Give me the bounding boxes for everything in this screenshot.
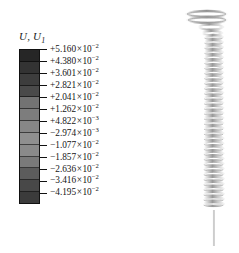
spring-transition-coils bbox=[198, 24, 223, 35]
colorbar-band bbox=[20, 157, 39, 169]
colorbar-band bbox=[20, 109, 39, 121]
colorbar-band bbox=[20, 121, 39, 133]
spring-coil-turn bbox=[204, 106, 223, 110]
spring-coil-turn bbox=[204, 40, 222, 44]
legend-title: U, U1 bbox=[19, 30, 45, 45]
spring-coil-turn bbox=[204, 91, 223, 95]
colorbar-band bbox=[20, 145, 39, 157]
legend-title-text: U, U bbox=[19, 30, 41, 42]
tick-mark bbox=[40, 169, 47, 170]
spring-coil-turn bbox=[204, 65, 222, 69]
tick-mark bbox=[40, 61, 47, 62]
colorbar-band bbox=[20, 180, 39, 192]
colorbar-band bbox=[20, 97, 39, 109]
spring-coil-turn bbox=[204, 156, 223, 160]
tick-mark bbox=[40, 121, 47, 122]
spring-coil-turn bbox=[204, 177, 223, 181]
spring-coil-turn bbox=[204, 151, 223, 155]
spring-coil-turn bbox=[204, 96, 223, 100]
spring-coil-turn bbox=[204, 146, 223, 150]
colorbar-band bbox=[20, 62, 39, 74]
spring-coil-turn bbox=[204, 50, 222, 54]
spring-coil-turn bbox=[204, 126, 223, 130]
colorbar-tick-list: +5.160×10−2+4.380×10−2+3.601×10−2+2.821×… bbox=[40, 49, 130, 204]
tick-mark bbox=[40, 157, 47, 158]
spring-coil-turn bbox=[204, 136, 223, 140]
spring-coil-turn bbox=[204, 101, 223, 105]
spring-coil-turn bbox=[204, 70, 222, 74]
model-viewport bbox=[130, 0, 239, 253]
colorbar-band bbox=[20, 192, 39, 203]
spring-coil-turn bbox=[204, 116, 223, 120]
colorbar-band bbox=[20, 168, 39, 180]
tick-mark bbox=[40, 73, 47, 74]
spring-coil-turn bbox=[204, 55, 222, 59]
spring-coil-turn bbox=[204, 197, 224, 201]
spring-coil-turn bbox=[204, 141, 223, 145]
tick-mark bbox=[40, 49, 47, 50]
legend-title-subscript: 1 bbox=[41, 36, 45, 45]
spring-coil-turn bbox=[204, 111, 223, 115]
tick-mark bbox=[40, 145, 47, 146]
tick-mark bbox=[40, 193, 47, 194]
spring-coil-turn bbox=[204, 121, 223, 125]
tick-mark bbox=[40, 109, 47, 110]
spring-coil-turn bbox=[204, 187, 224, 191]
spring-coil-turn bbox=[204, 60, 222, 64]
spring-coil-turn bbox=[204, 162, 223, 166]
spring-coil-turn bbox=[204, 76, 222, 80]
spring-coil-turn bbox=[204, 192, 224, 196]
tick-mark bbox=[40, 133, 47, 134]
spring-coil-turn bbox=[205, 35, 223, 39]
tick-mark bbox=[40, 85, 47, 86]
tick-mark bbox=[40, 97, 47, 98]
spring-coil-turn bbox=[204, 167, 223, 171]
spring-coil-turn bbox=[204, 86, 223, 90]
spring-coil-turn bbox=[204, 172, 223, 176]
colorbar-band bbox=[20, 133, 39, 145]
tick-mark bbox=[40, 181, 47, 182]
spring-coil-turn bbox=[204, 131, 223, 135]
colorbar-wrapper bbox=[19, 49, 40, 204]
fea-contour-figure: U, U1 +5.160×10−2+4.380×10−2+3.601×10−2+… bbox=[0, 0, 239, 253]
colorbar-band bbox=[20, 50, 39, 62]
spring-coil-turn bbox=[204, 45, 222, 49]
contour-legend: U, U1 +5.160×10−2+4.380×10−2+3.601×10−2+… bbox=[0, 0, 130, 253]
tick-label: −4.195×10−2 bbox=[50, 188, 99, 197]
spring-coil-turn bbox=[204, 202, 224, 206]
spring-coil-turn bbox=[204, 81, 222, 85]
colorbar-band bbox=[20, 86, 39, 98]
spring-main-helix bbox=[204, 35, 224, 207]
colorbar-band bbox=[20, 74, 39, 86]
coil-spring-graphic bbox=[130, 0, 239, 253]
spring-coil-turn bbox=[204, 182, 224, 186]
colorbar bbox=[19, 49, 40, 204]
